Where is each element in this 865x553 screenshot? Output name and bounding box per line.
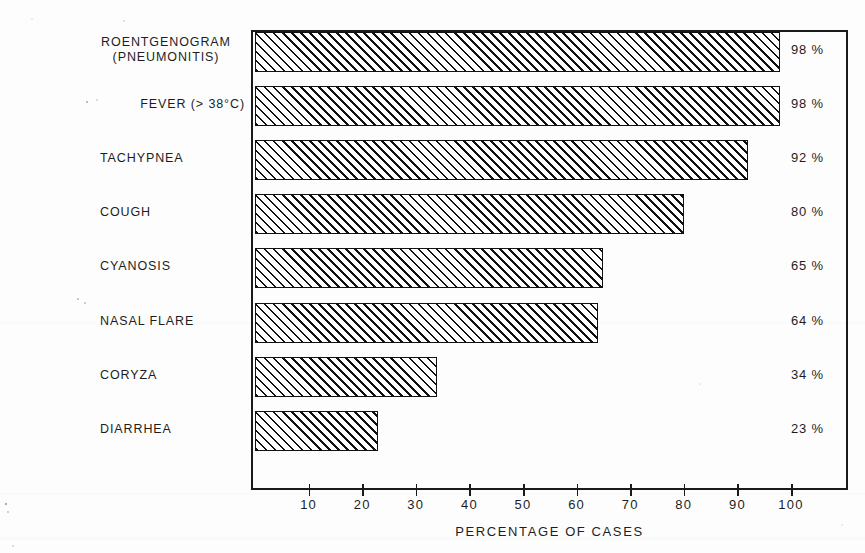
category-label-line: CORYZA: [100, 368, 245, 383]
x-axis-tick-label: 90: [717, 497, 757, 512]
x-axis-title: PERCENTAGE OF CASES: [251, 524, 848, 539]
bar: [255, 140, 748, 180]
bar: [255, 32, 780, 72]
x-axis-tick: [469, 484, 471, 496]
bar: [255, 248, 603, 288]
x-axis-tick: [630, 484, 632, 496]
chart-page: ROENTGENOGRAM(PNEUMONITIS)FEVER (> 38°C)…: [0, 0, 865, 553]
bar-value-label: 34 %: [791, 367, 824, 382]
x-axis-tick: [684, 484, 686, 496]
category-label-line: FEVER (> 38°C): [86, 97, 245, 112]
x-axis-tick: [309, 484, 311, 496]
category-label: COUGH: [100, 205, 245, 220]
bar-value-label: 98 %: [791, 96, 824, 111]
bar: [255, 86, 780, 126]
x-axis-tick-label: 50: [503, 497, 543, 512]
bar: [255, 303, 598, 343]
x-axis-tick-label: 10: [289, 497, 329, 512]
category-label-line: (PNEUMONITIS): [86, 50, 246, 65]
category-label: DIARRHEA: [100, 422, 245, 437]
x-axis-tick: [791, 484, 793, 496]
x-axis-tick-label: 30: [396, 497, 436, 512]
bar-value-label: 98 %: [791, 42, 824, 57]
x-axis-tick-label: 20: [342, 497, 382, 512]
bar-value-label: 80 %: [791, 204, 824, 219]
category-label-line: NASAL FLARE: [100, 314, 245, 329]
bar: [255, 194, 684, 234]
bar-value-label: 65 %: [791, 258, 824, 273]
bar-value-label: 92 %: [791, 150, 824, 165]
category-label: ROENTGENOGRAM(PNEUMONITIS): [86, 35, 246, 65]
category-label: CYANOSIS: [100, 259, 245, 274]
category-label: TACHYPNEA: [100, 151, 245, 166]
category-label: FEVER (> 38°C): [86, 97, 245, 112]
x-axis-tick: [416, 484, 418, 496]
x-axis-tick: [523, 484, 525, 496]
x-axis-tick: [362, 484, 364, 496]
x-axis-tick-label: 100: [771, 497, 811, 512]
category-label-line: DIARRHEA: [100, 422, 245, 437]
x-axis-tick-label: 80: [664, 497, 704, 512]
category-label-line: ROENTGENOGRAM: [86, 35, 246, 50]
category-label-line: CYANOSIS: [100, 259, 245, 274]
bar-value-label: 23 %: [791, 421, 824, 436]
category-label-line: COUGH: [100, 205, 245, 220]
category-label-line: TACHYPNEA: [100, 151, 245, 166]
x-axis-tick-label: 40: [449, 497, 489, 512]
category-label: NASAL FLARE: [100, 314, 245, 329]
category-label: CORYZA: [100, 368, 245, 383]
plot-frame: [251, 30, 848, 490]
bar: [255, 357, 437, 397]
x-axis-tick: [737, 484, 739, 496]
bar: [255, 411, 378, 451]
x-axis-tick-label: 60: [557, 497, 597, 512]
x-axis-tick-label: 70: [610, 497, 650, 512]
x-axis-tick: [577, 484, 579, 496]
bar-value-label: 64 %: [791, 313, 824, 328]
